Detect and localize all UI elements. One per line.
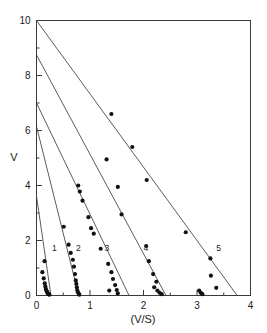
y-tick-label: 10	[19, 15, 31, 26]
curve-label-5: 5	[216, 243, 221, 253]
data-point	[113, 283, 117, 287]
y-tick-label: 4	[25, 180, 31, 191]
scatter-plot-figure: 01234 0246810 12345 V (V/S)	[0, 0, 267, 333]
data-point	[89, 226, 93, 230]
data-point	[71, 258, 75, 262]
data-point	[77, 293, 81, 297]
data-point	[42, 259, 46, 263]
curve-label-1: 1	[52, 243, 57, 253]
data-point	[109, 270, 113, 274]
data-point	[130, 145, 134, 149]
data-point	[40, 270, 44, 274]
data-point	[73, 272, 77, 276]
data-point	[107, 288, 111, 292]
figure-background	[0, 0, 267, 333]
data-point	[92, 232, 96, 236]
x-tick-label: 2	[141, 300, 147, 311]
data-point	[119, 212, 123, 216]
y-tick-label: 0	[25, 290, 31, 301]
data-point	[160, 292, 164, 296]
data-point	[116, 291, 120, 295]
data-point	[42, 276, 46, 280]
curve-label-2: 2	[76, 243, 81, 253]
data-point	[151, 272, 155, 276]
data-point	[72, 265, 76, 269]
data-point	[86, 215, 90, 219]
data-point	[104, 157, 108, 161]
x-tick-label: 1	[87, 300, 93, 311]
y-axis-label: V	[10, 151, 18, 163]
y-tick-label: 2	[25, 235, 31, 246]
data-point	[184, 230, 188, 234]
x-tick-label: 4	[248, 300, 254, 311]
data-point	[208, 256, 212, 260]
data-point	[74, 278, 78, 282]
data-point	[147, 259, 151, 263]
data-point	[109, 112, 113, 116]
data-point	[145, 178, 149, 182]
curve-label-4: 4	[144, 243, 149, 253]
data-point	[67, 243, 71, 247]
data-point	[106, 262, 110, 266]
data-point	[62, 225, 66, 229]
data-point	[152, 285, 156, 289]
data-point	[80, 199, 84, 203]
data-point	[154, 280, 158, 284]
data-point	[76, 183, 80, 187]
y-tick-label: 8	[25, 70, 31, 81]
curve-label-3: 3	[104, 243, 109, 253]
data-point	[78, 189, 82, 193]
data-point	[47, 293, 51, 297]
plot-canvas: 01234 0246810 12345 V (V/S)	[0, 0, 267, 333]
x-axis-label: (V/S)	[130, 313, 155, 325]
data-point	[99, 247, 103, 251]
data-point	[214, 286, 218, 290]
y-tick-label: 6	[25, 125, 31, 136]
data-point	[69, 251, 73, 255]
data-point	[111, 277, 115, 281]
x-tick-label: 0	[34, 300, 40, 311]
x-tick-label: 3	[194, 300, 200, 311]
data-point	[116, 185, 120, 189]
data-point	[200, 292, 204, 296]
data-point	[209, 274, 213, 278]
